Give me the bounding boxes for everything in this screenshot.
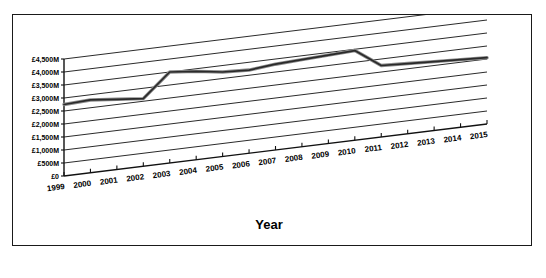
y-axis-tick-label: £3,000M	[32, 95, 59, 103]
chart-frame: £0£500M£1,000M£1,500M£2,000M£2,500M£3,00…	[12, 14, 532, 246]
gridline	[64, 59, 487, 111]
x-axis-tick-label: 2015	[469, 130, 488, 141]
x-axis-tick-label: 2013	[417, 136, 436, 147]
x-axis-tick-label: 2011	[364, 143, 383, 154]
y-axis-tick-label: £500M	[38, 160, 60, 167]
gridline	[64, 33, 487, 85]
y-axis-tick-label: £2,500M	[32, 108, 59, 116]
x-axis-tick-label: 2000	[73, 179, 92, 190]
x-axis-tick-label: 2004	[179, 166, 198, 177]
y-axis-tick-label: £3,500M	[32, 82, 59, 90]
y-axis-tick-label: £4,500M	[32, 56, 59, 64]
x-axis-tick-label: 2012	[390, 140, 409, 151]
x-axis-tick-label: 1999	[46, 182, 65, 193]
y-axis-tick-label: £4,000M	[32, 69, 59, 77]
gridline	[64, 46, 487, 98]
x-axis-tick-label: 2003	[152, 169, 171, 180]
x-axis-tick-label: 2014	[443, 133, 462, 144]
gridlines-group	[64, 15, 487, 176]
y-axis-group	[61, 59, 64, 176]
gridline	[64, 15, 487, 59]
y-axis-tick-label: £2,000M	[32, 121, 59, 129]
x-axis-tick-label: 2002	[126, 172, 145, 183]
x-axis-tick-label: 2009	[311, 149, 330, 160]
y-axis-tick-label: £1,500M	[32, 134, 59, 142]
x-axis-tick-label: 2001	[99, 175, 118, 186]
x-axis-tick-label: 2007	[258, 156, 277, 167]
x-axis-tick-label: 2008	[284, 153, 303, 164]
x-axis-tick-label: 2006	[232, 159, 251, 170]
y-axis-labels-group: £0£500M£1,000M£1,500M£2,000M£2,500M£3,00…	[32, 56, 59, 180]
line-chart-3d: £0£500M£1,000M£1,500M£2,000M£2,500M£3,00…	[13, 15, 531, 245]
y-axis-tick-label: £1,000M	[32, 147, 59, 155]
x-axis-labels-group: 1999200020012002200320042005200620072008…	[46, 130, 488, 193]
gridline	[64, 85, 487, 137]
chart-screenshot: £0£500M£1,000M£1,500M£2,000M£2,500M£3,00…	[0, 0, 546, 278]
x-axis-tick-label: 2005	[205, 162, 224, 173]
y-axis-tick-label: £0	[51, 173, 59, 180]
x-axis-tick-label: 2010	[337, 146, 356, 157]
x-axis-title: Year	[255, 217, 282, 232]
